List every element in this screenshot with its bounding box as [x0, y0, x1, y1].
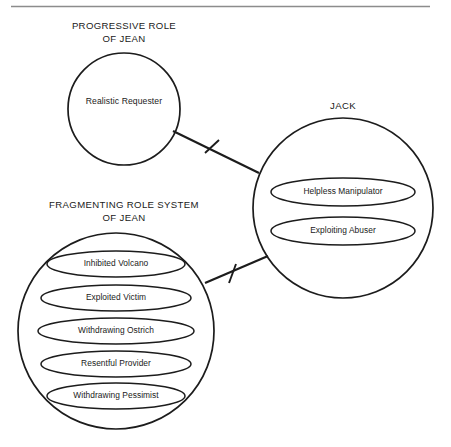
- group-title-jack: JACK: [330, 100, 356, 111]
- role-system-diagram: PROGRESSIVE ROLE OF JEAN Realistic Reque…: [0, 0, 451, 447]
- role-label-resentful-provider: Resentful Provider: [81, 358, 151, 368]
- role-label-realistic-requester: Realistic Requester: [86, 96, 162, 106]
- role-label-exploited-victim: Exploited Victim: [86, 292, 146, 302]
- group-title-progressive-line2: OF JEAN: [103, 33, 146, 44]
- group-title-progressive-line1: PROGRESSIVE ROLE: [72, 20, 176, 31]
- role-label-helpless-manipulator: Helpless Manipulator: [303, 186, 382, 196]
- role-label-withdrawing-pessimist: Withdrawing Pessimist: [73, 390, 159, 400]
- connector-progressive-to-jack[interactable]: [173, 131, 259, 173]
- group-progressive-role-of-jean: PROGRESSIVE ROLE OF JEAN Realistic Reque…: [68, 20, 180, 165]
- group-title-fragmenting-line2: OF JEAN: [103, 212, 146, 223]
- circle-jack[interactable]: [253, 118, 433, 298]
- connector-line-fragmenting-jack[interactable]: [205, 256, 268, 283]
- connector-fragmenting-to-jack[interactable]: [205, 256, 268, 283]
- circle-progressive-role-of-jean[interactable]: [68, 53, 180, 165]
- diagram-canvas: PROGRESSIVE ROLE OF JEAN Realistic Reque…: [0, 0, 451, 447]
- group-jack: JACK Helpless Manipulator Exploiting Abu…: [253, 100, 433, 298]
- connector-hash-mark-fragmenting-jack: [229, 264, 236, 283]
- group-title-fragmenting-line1: FRAGMENTING ROLE SYSTEM: [49, 199, 199, 210]
- group-fragmenting-role-system-of-jean: FRAGMENTING ROLE SYSTEM OF JEAN Inhibite…: [18, 199, 214, 429]
- connector-line-progressive-jack[interactable]: [173, 131, 259, 173]
- role-label-exploiting-abuser: Exploiting Abuser: [310, 225, 376, 235]
- role-label-inhibited-volcano: Inhibited Volcano: [84, 258, 149, 268]
- role-label-withdrawing-ostrich: Withdrawing Ostrich: [78, 325, 154, 335]
